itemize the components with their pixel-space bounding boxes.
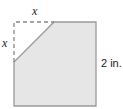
- left-x-label: x: [2, 37, 7, 49]
- top-x-label: x: [32, 5, 37, 17]
- shaded-region: [14, 22, 96, 106]
- side-length-label: 2 in.: [101, 58, 122, 69]
- square-diagram: [0, 0, 123, 109]
